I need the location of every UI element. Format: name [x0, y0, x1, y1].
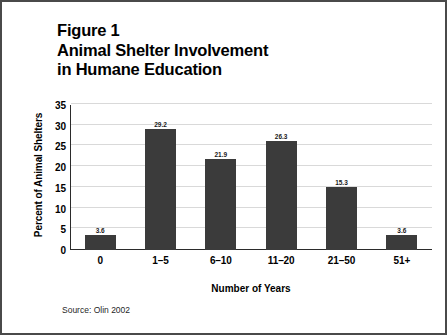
y-tick-label: 20 [42, 162, 66, 173]
x-tick-label: 6–10 [191, 255, 251, 266]
bar: 3.6 [386, 235, 417, 250]
bar: 21.9 [205, 159, 236, 250]
y-axis-tick-labels: 05101520253035 [40, 105, 66, 250]
figure-title: Figure 1 Animal Shelter Involvement in H… [57, 21, 387, 80]
y-tick-label: 25 [42, 141, 66, 152]
y-tick-label: 5 [42, 224, 66, 235]
x-tick-label: 21–50 [311, 255, 371, 266]
y-tick-label: 10 [42, 203, 66, 214]
title-line-3: in Humane Education [57, 60, 387, 80]
title-line-2: Animal Shelter Involvement [57, 41, 387, 61]
x-tick-label: 0 [70, 255, 130, 266]
bar-value-label: 3.6 [96, 227, 105, 234]
bar: 15.3 [326, 187, 357, 250]
x-tick-label: 11–20 [251, 255, 311, 266]
x-axis-tick-labels: 01–56–1011–2021–5051+ [70, 255, 432, 266]
gridline [71, 103, 432, 104]
x-axis-title: Number of Years [70, 283, 432, 294]
source-note: Source: Olin 2002 [62, 305, 130, 315]
bar-value-label: 21.9 [214, 151, 227, 158]
bar-value-label: 3.6 [397, 227, 406, 234]
bar-slot: 15.3 [311, 105, 371, 250]
title-line-1: Figure 1 [57, 21, 387, 41]
bar-slot: 3.6 [70, 105, 130, 250]
bar-slot: 26.3 [251, 105, 311, 250]
bar-series: 3.629.221.926.315.33.6 [70, 105, 432, 250]
bar-slot: 21.9 [191, 105, 251, 250]
bar-slot: 29.2 [130, 105, 190, 250]
x-tick-label: 1–5 [130, 255, 190, 266]
bar-value-label: 29.2 [154, 121, 167, 128]
bar-value-label: 15.3 [335, 179, 348, 186]
bar: 3.6 [85, 235, 116, 250]
figure-container: Figure 1 Animal Shelter Involvement in H… [0, 0, 447, 335]
bar-slot: 3.6 [372, 105, 432, 250]
y-tick-label: 0 [42, 245, 66, 256]
y-tick-label: 30 [42, 120, 66, 131]
bar-value-label: 26.3 [275, 133, 288, 140]
bar: 29.2 [145, 129, 176, 250]
x-tick-label: 51+ [372, 255, 432, 266]
y-tick-label: 15 [42, 182, 66, 193]
y-tick-label: 35 [42, 100, 66, 111]
bar: 26.3 [266, 141, 297, 250]
